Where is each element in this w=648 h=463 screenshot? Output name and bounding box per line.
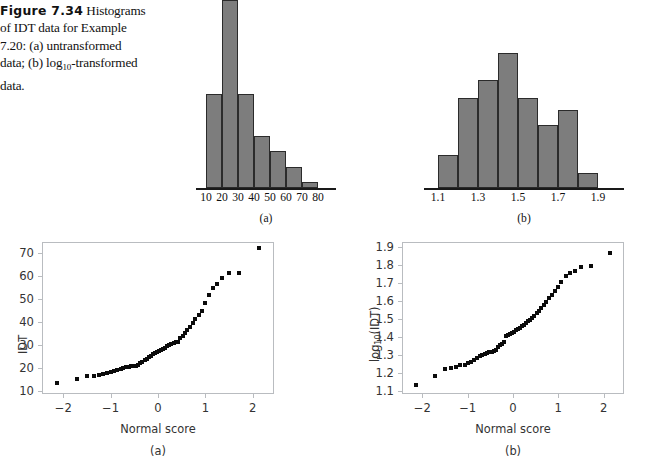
scatter-point	[556, 285, 560, 289]
scatter-point	[257, 246, 261, 250]
y-axis-tick	[38, 299, 42, 300]
y-axis-tick	[38, 253, 42, 254]
scatter-point	[191, 321, 195, 325]
histogram-untransformed-tick-labels: 1020304050607080	[196, 191, 336, 207]
qq-log-x-axis-label: Normal score	[475, 422, 550, 436]
scatter-point	[449, 366, 453, 370]
y-axis-tick	[38, 391, 42, 392]
caption-line-4-pre: data; (b) log	[0, 55, 63, 70]
y-axis-tick	[38, 276, 42, 277]
scatter-point	[553, 289, 557, 293]
x-axis-tick-label: −1	[102, 401, 119, 415]
x-axis-tick	[111, 394, 112, 398]
y-axis-tick-label: 70	[2, 246, 34, 260]
x-axis-tick	[205, 394, 206, 398]
histogram-tick-label: 1.3	[471, 191, 486, 204]
histogram-tick-label: 20	[216, 191, 228, 204]
scatter-point	[227, 271, 231, 275]
y-axis-tick-label: 1.7	[362, 276, 394, 290]
histogram-tick-label: 1.7	[551, 191, 566, 204]
histogram-tick-label: 80	[312, 191, 324, 204]
histogram-tick-label: 50	[264, 191, 276, 204]
scatter-point	[579, 265, 583, 269]
scatter-point	[502, 340, 506, 344]
caption-log-subscript: 10	[63, 62, 72, 72]
y-axis-tick	[398, 319, 402, 320]
x-axis-tick-label: −1	[459, 401, 476, 415]
y-axis-tick	[398, 247, 402, 248]
x-axis-tick-label: 2	[249, 401, 256, 415]
histogram-tick-label: 30	[232, 191, 244, 204]
x-axis-tick	[468, 394, 469, 398]
y-axis-tick-label: 60	[2, 269, 34, 283]
x-axis-tick	[63, 394, 64, 398]
x-axis-tick	[158, 394, 159, 398]
histogram-bar	[458, 98, 478, 188]
figure-caption: Figure 7.34 Histograms of IDT data for E…	[0, 2, 196, 94]
scatter-point	[193, 317, 197, 321]
y-axis-tick	[398, 373, 402, 374]
caption-line-2: of IDT data for Example	[0, 20, 127, 35]
scatter-point	[200, 309, 204, 313]
scatter-point	[92, 374, 96, 378]
x-axis-tick-label: 2	[600, 401, 607, 415]
histogram-log-panel: 1.11.31.51.71.9 (b)	[424, 0, 624, 215]
histogram-tick-label: 1.5	[511, 191, 526, 204]
scatter-point	[608, 251, 612, 255]
caption-line-1: Histograms	[86, 3, 145, 18]
histogram-bar	[238, 94, 254, 188]
histogram-log-baseline	[424, 188, 624, 190]
qq-untransformed-x-axis-label: Normal score	[120, 422, 195, 436]
scatter-point	[207, 293, 211, 297]
y-axis-tick	[38, 345, 42, 346]
histogram-untransformed-bars	[196, 0, 336, 188]
scatter-point	[443, 367, 447, 371]
scatter-point	[237, 271, 241, 275]
x-axis-tick	[604, 394, 605, 398]
caption-line-5: data.	[0, 78, 25, 93]
x-axis-tick-label: 0	[154, 401, 161, 415]
y-axis-tick	[38, 322, 42, 323]
scatter-point	[211, 286, 215, 290]
histogram-untransformed-baseline	[196, 188, 336, 190]
x-axis-tick	[513, 394, 514, 398]
histogram-bar	[254, 136, 270, 188]
caption-line-3: 7.20: (a) untransformed	[0, 38, 121, 53]
scatter-point	[547, 296, 551, 300]
y-axis-tick	[398, 391, 402, 392]
histogram-bar	[518, 98, 538, 188]
y-axis-tick-label: 1.1	[362, 384, 394, 398]
y-axis-tick	[398, 301, 402, 302]
scatter-point	[414, 383, 418, 387]
qq-untransformed-plot-area[interactable]	[42, 242, 274, 394]
y-axis-tick-label: 50	[2, 292, 34, 306]
y-axis-tick-label: 1.8	[362, 258, 394, 272]
x-axis-tick	[253, 394, 254, 398]
caption-line-4-post: -transformed	[71, 55, 137, 70]
y-axis-tick-label: 1.6	[362, 294, 394, 308]
y-axis-tick	[38, 368, 42, 369]
y-axis-tick	[398, 337, 402, 338]
qq-untransformed-panel: IDT Normal score (a) −2−1012102030405060…	[0, 232, 300, 463]
y-axis-tick-label: 20	[2, 361, 34, 375]
scatter-point	[433, 374, 437, 378]
qq-untransformed-caption: (a)	[150, 444, 166, 458]
scatter-point	[188, 325, 192, 329]
y-axis-tick	[398, 283, 402, 284]
histogram-tick-label: 1.9	[591, 191, 606, 204]
y-axis-tick-label: 40	[2, 315, 34, 329]
histogram-tick-label: 40	[248, 191, 260, 204]
histogram-tick-label: 70	[296, 191, 308, 204]
scatter-point	[589, 264, 593, 268]
y-axis-tick-label: 1.2	[362, 366, 394, 380]
y-axis-tick-label: 1.3	[362, 348, 394, 362]
y-axis-tick-label: 30	[2, 338, 34, 352]
histogram-log-bars	[424, 53, 624, 188]
scatter-point	[85, 374, 89, 378]
histogram-tick-label: 10	[200, 191, 212, 204]
histogram-tick-label: 60	[280, 191, 292, 204]
histogram-bar	[438, 155, 458, 188]
histogram-bar	[206, 94, 222, 188]
histogram-bar	[498, 53, 518, 188]
y-axis-tick-label: 1.4	[362, 330, 394, 344]
